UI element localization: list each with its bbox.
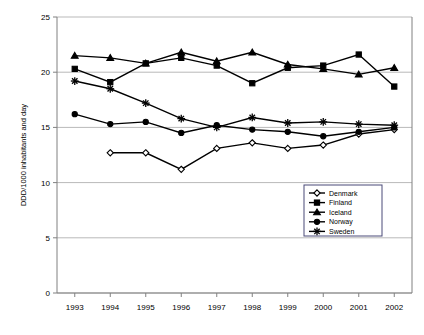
- data-point-marker: [314, 200, 319, 205]
- data-point-marker: [249, 49, 256, 55]
- x-tick-label: 1997: [208, 303, 226, 312]
- data-point-marker: [107, 150, 113, 156]
- y-tick-label: 20: [41, 68, 50, 77]
- data-point-marker: [249, 140, 255, 146]
- data-point-marker: [108, 80, 113, 85]
- series-line: [75, 52, 395, 74]
- series-iceland: [71, 49, 397, 77]
- data-point-marker: [356, 52, 361, 57]
- legend-label-finland: Finland: [329, 199, 352, 206]
- data-point-marker: [391, 65, 398, 71]
- x-tick-label: 2002: [385, 303, 403, 312]
- data-point-marker: [143, 150, 149, 156]
- data-point-marker: [390, 121, 398, 129]
- series-norway: [72, 112, 397, 139]
- x-tick-label: 1999: [279, 303, 297, 312]
- y-tick-label: 15: [41, 123, 50, 132]
- data-point-marker: [248, 114, 256, 122]
- legend-label-sweden: Sweden: [329, 228, 354, 235]
- series-line: [110, 130, 394, 170]
- x-tick-label: 1995: [137, 303, 155, 312]
- data-point-marker: [250, 81, 255, 86]
- legend-label-norway: Norway: [329, 218, 353, 226]
- data-point-marker: [72, 66, 77, 71]
- x-tick-label: 1993: [66, 303, 84, 312]
- data-point-marker: [284, 119, 292, 127]
- data-point-marker: [285, 129, 290, 134]
- legend-label-denmark: Denmark: [329, 190, 358, 197]
- legend: DenmarkFinlandIcelandNorwaySweden: [304, 185, 382, 236]
- y-tick-label: 5: [46, 234, 51, 243]
- y-tick-label: 10: [41, 179, 50, 188]
- data-point-marker: [250, 127, 255, 132]
- x-tick-label: 1996: [172, 303, 190, 312]
- data-point-marker: [321, 134, 326, 139]
- data-point-marker: [72, 112, 77, 117]
- x-tick-label: 1994: [101, 303, 119, 312]
- series-finland: [72, 52, 397, 89]
- data-point-marker: [285, 145, 291, 151]
- data-point-marker: [320, 142, 326, 148]
- data-point-marker: [179, 130, 184, 135]
- x-tick-label: 2000: [314, 303, 332, 312]
- data-point-marker: [214, 145, 220, 151]
- legend-label-iceland: Iceland: [329, 209, 352, 216]
- data-point-marker: [392, 84, 397, 89]
- data-point-marker: [143, 119, 148, 124]
- data-point-marker: [356, 129, 361, 134]
- chart-canvas: 0510152025199319941995199619971998199920…: [0, 0, 424, 335]
- data-point-marker: [314, 219, 319, 224]
- data-point-marker: [213, 124, 221, 132]
- data-point-marker: [71, 77, 79, 85]
- data-point-marker: [178, 166, 184, 172]
- data-point-marker: [355, 120, 363, 128]
- data-point-marker: [142, 99, 150, 107]
- y-axis-label: DDD/1000 inhabitants and day: [19, 104, 28, 206]
- series-line: [75, 114, 395, 136]
- x-tick-label: 2001: [350, 303, 368, 312]
- x-tick-label: 1998: [243, 303, 261, 312]
- series-denmark: [107, 127, 397, 173]
- series-line: [75, 81, 395, 127]
- data-point-marker: [319, 118, 327, 126]
- data-point-marker: [313, 228, 321, 236]
- data-point-marker: [178, 49, 185, 55]
- data-point-marker: [179, 55, 184, 60]
- data-point-marker: [108, 121, 113, 126]
- data-point-marker: [106, 85, 114, 93]
- data-point-marker: [177, 115, 185, 123]
- y-tick-label: 0: [46, 289, 51, 298]
- y-tick-label: 25: [41, 13, 50, 22]
- line-chart: 0510152025199319941995199619971998199920…: [0, 0, 424, 335]
